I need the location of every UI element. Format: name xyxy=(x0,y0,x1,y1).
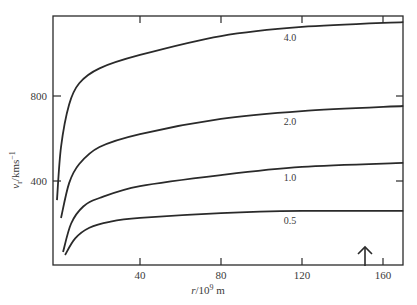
curves xyxy=(57,22,403,255)
x-axis-label: r/109 m xyxy=(191,283,225,296)
x-tick-label: 120 xyxy=(294,269,311,281)
svg-text:vr/kms−1: vr/kms−1 xyxy=(8,151,24,188)
curve-label: 4.0 xyxy=(284,32,297,43)
x-tick-label: 160 xyxy=(375,269,392,281)
curve-1.0 xyxy=(63,163,403,252)
y-tick-label: 800 xyxy=(31,90,48,102)
curve-2.0 xyxy=(61,106,403,218)
curve-label: 1.0 xyxy=(284,172,297,183)
curve-labels: 4.02.01.00.5 xyxy=(284,32,297,226)
x-tick-label: 80 xyxy=(216,269,228,281)
y-axis-label: vr/kms−1 xyxy=(8,151,24,188)
curve-label: 0.5 xyxy=(284,215,297,226)
chart-canvas: 4080120160400800 4.02.01.00.5 r/109 m vr… xyxy=(0,0,417,305)
curve-0.5 xyxy=(65,211,403,255)
curve-label: 2.0 xyxy=(284,116,297,127)
arrow-up-icon xyxy=(358,247,372,266)
plot-frame xyxy=(53,16,403,265)
y-tick-label: 400 xyxy=(31,175,48,187)
svg-text:r/109 m: r/109 m xyxy=(191,283,225,296)
axis-ticks: 4080120160400800 xyxy=(31,16,404,281)
x-tick-label: 40 xyxy=(135,269,147,281)
